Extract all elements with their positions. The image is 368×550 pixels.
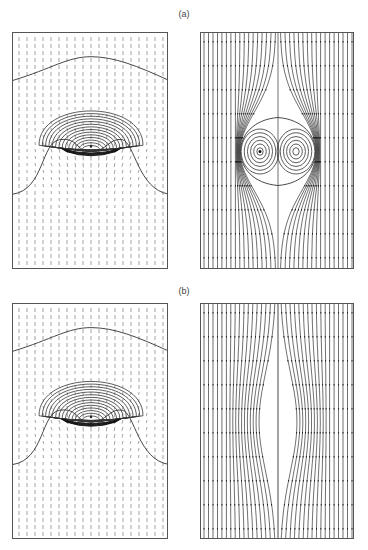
vector-field-contour-plot xyxy=(13,304,168,539)
streamline-plot xyxy=(201,304,354,539)
part-label-b: (b) xyxy=(179,286,190,296)
streamline-plot xyxy=(201,33,354,269)
panel-a-streamlines xyxy=(200,32,354,269)
vector-field-contour-plot xyxy=(13,33,168,269)
panel-b-vector-field xyxy=(12,303,168,539)
part-label-a: (a) xyxy=(179,9,190,19)
panel-b-streamlines xyxy=(200,303,354,539)
panel-a-vector-field xyxy=(12,32,168,269)
